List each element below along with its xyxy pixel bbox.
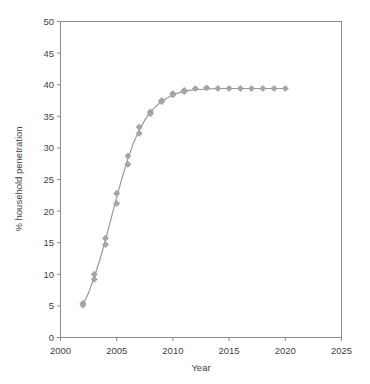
scatter-plot-canvas: 05101520253035404550 2000200520102015202… bbox=[0, 0, 370, 384]
y-tick-label: 20 bbox=[43, 206, 54, 217]
y-tick-label: 40 bbox=[43, 79, 54, 90]
y-tick-label: 30 bbox=[43, 142, 54, 153]
x-axis-ticks bbox=[61, 338, 342, 342]
y-tick-label: 10 bbox=[43, 269, 54, 280]
data-point-marker bbox=[248, 85, 254, 91]
data-point-marker bbox=[271, 85, 277, 91]
y-tick-label: 15 bbox=[43, 237, 54, 248]
data-point-marker bbox=[226, 85, 232, 91]
chart-figure: 05101520253035404550 2000200520102015202… bbox=[0, 0, 370, 384]
x-tick-label: 2015 bbox=[219, 345, 240, 356]
data-point-marker bbox=[215, 85, 221, 91]
data-point-markers bbox=[80, 85, 289, 309]
x-axis-tick-labels: 200020052010201520202025 bbox=[50, 345, 352, 356]
y-tick-label: 35 bbox=[43, 111, 54, 122]
plot-frame bbox=[61, 22, 342, 338]
data-point-marker bbox=[260, 85, 266, 91]
x-tick-label: 2000 bbox=[50, 345, 71, 356]
data-point-marker bbox=[204, 85, 210, 91]
x-tick-label: 2005 bbox=[106, 345, 127, 356]
y-axis-title: % household penetration bbox=[13, 126, 24, 231]
y-axis-tick-labels: 05101520253035404550 bbox=[43, 16, 54, 343]
data-point-marker bbox=[282, 85, 288, 91]
fit-curve-group bbox=[83, 88, 285, 304]
y-tick-label: 0 bbox=[49, 332, 54, 343]
data-point-marker bbox=[237, 85, 243, 91]
y-tick-label: 5 bbox=[49, 300, 54, 311]
data-point-marker bbox=[192, 85, 198, 91]
data-point-marker bbox=[136, 124, 142, 130]
y-axis-ticks bbox=[57, 22, 61, 338]
y-tick-label: 50 bbox=[43, 16, 54, 27]
x-tick-label: 2025 bbox=[331, 345, 352, 356]
x-axis-title: Year bbox=[191, 362, 210, 373]
data-point-marker bbox=[102, 235, 108, 241]
y-tick-label: 45 bbox=[43, 48, 54, 59]
x-tick-label: 2010 bbox=[162, 345, 183, 356]
x-tick-label: 2020 bbox=[275, 345, 296, 356]
data-point-marker bbox=[91, 276, 97, 282]
y-tick-label: 25 bbox=[43, 174, 54, 185]
